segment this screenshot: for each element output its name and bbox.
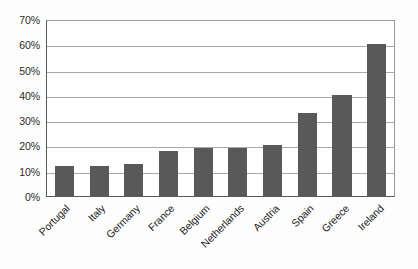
x-label-slot: Spain — [290, 198, 325, 269]
bar-chart-figure: 0%10%20%30%40%50%60%70% PortugalItalyGer… — [0, 0, 418, 269]
x-label-slot: Ireland — [360, 198, 395, 269]
bars-layer — [47, 21, 394, 196]
bar-slot — [186, 21, 221, 196]
bar-france[interactable] — [159, 151, 178, 197]
bar-slot — [82, 21, 117, 196]
bar-slot — [116, 21, 151, 196]
y-tick-label: 70% — [19, 14, 40, 26]
x-tick-label-italy: Italy — [85, 202, 107, 224]
x-label-slot: France — [151, 198, 186, 269]
y-tick-label: 0% — [25, 191, 40, 203]
bar-netherlands[interactable] — [228, 148, 247, 196]
x-label-slot: Germany — [116, 198, 151, 269]
x-tick-label-france: France — [145, 202, 176, 233]
x-tick-label-austria: Austria — [250, 202, 281, 233]
bar-portugal[interactable] — [55, 166, 74, 196]
x-label-slot: Austria — [255, 198, 290, 269]
x-label-slot: Portugal — [46, 198, 81, 269]
bar-slot — [325, 21, 360, 196]
bar-slot — [221, 21, 256, 196]
bar-slot — [255, 21, 290, 196]
plot-area — [46, 20, 395, 197]
bar-slot — [359, 21, 394, 196]
bar-ireland[interactable] — [367, 44, 386, 196]
bar-slot — [290, 21, 325, 196]
y-tick-label: 50% — [19, 65, 40, 77]
bar-austria[interactable] — [263, 145, 282, 196]
bar-italy[interactable] — [90, 166, 109, 196]
x-axis: PortugalItalyGermanyFranceBelgiumNetherl… — [46, 198, 395, 269]
y-tick-label: 20% — [19, 140, 40, 152]
bar-slot — [151, 21, 186, 196]
x-label-slot: Greece — [325, 198, 360, 269]
bar-spain[interactable] — [298, 113, 317, 196]
x-tick-label-spain: Spain — [289, 202, 316, 229]
y-tick-label: 10% — [19, 166, 40, 178]
bar-germany[interactable] — [124, 164, 143, 196]
x-tick-label-ireland: Ireland — [355, 202, 386, 233]
bar-slot — [47, 21, 82, 196]
bar-greece[interactable] — [332, 95, 351, 196]
y-tick-label: 60% — [19, 39, 40, 51]
x-label-slot: Netherlands — [221, 198, 256, 269]
y-tick-label: 30% — [19, 115, 40, 127]
bar-belgium[interactable] — [194, 148, 213, 196]
y-tick-label: 40% — [19, 90, 40, 102]
